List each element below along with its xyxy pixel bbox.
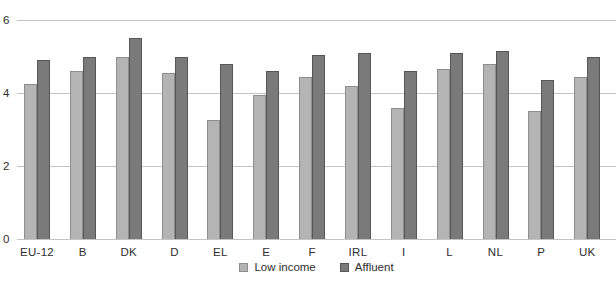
x-tick-label: D — [152, 247, 198, 259]
bar-affluent — [541, 80, 554, 239]
bar-low-income — [437, 69, 450, 239]
y-tick-label: 0 — [3, 234, 9, 246]
x-tick-label: P — [518, 247, 564, 259]
x-tick-label: I — [381, 247, 427, 259]
bar-low-income — [24, 84, 37, 239]
bar-low-income — [253, 95, 266, 239]
bar-affluent — [587, 57, 600, 240]
bar-affluent — [129, 38, 142, 239]
legend-item-low-income: Low income — [239, 262, 315, 274]
bar-chart: Low income Affluent 0246EU-12BDKDELEFIRL… — [0, 0, 616, 285]
x-tick-label: E — [243, 247, 289, 259]
bar-low-income — [391, 108, 404, 239]
x-tick-label: NL — [473, 247, 519, 259]
legend-item-affluent: Affluent — [340, 262, 394, 274]
bar-low-income — [345, 86, 358, 239]
y-tick-label: 6 — [3, 15, 9, 27]
bar-affluent — [175, 57, 188, 240]
y-tick-label: 2 — [3, 161, 9, 173]
bar-affluent — [404, 71, 417, 239]
bar-affluent — [220, 64, 233, 239]
bar-low-income — [116, 57, 129, 240]
bar-low-income — [528, 111, 541, 239]
bar-low-income — [207, 120, 220, 239]
legend-swatch-low-income — [239, 263, 248, 272]
x-tick-label: IRL — [335, 247, 381, 259]
bar-low-income — [70, 71, 83, 239]
x-tick-label: DK — [106, 247, 152, 259]
x-tick-label: L — [427, 247, 473, 259]
x-tick-label: EL — [197, 247, 243, 259]
bar-low-income — [483, 64, 496, 239]
legend-label-affluent: Affluent — [355, 262, 394, 274]
legend-label-low-income: Low income — [254, 262, 315, 274]
bar-affluent — [496, 51, 509, 239]
x-tick-label: UK — [564, 247, 610, 259]
bar-affluent — [450, 53, 463, 239]
gridline — [17, 20, 616, 21]
gridline — [17, 239, 616, 240]
bar-affluent — [312, 55, 325, 239]
y-tick-label: 4 — [3, 88, 9, 100]
bar-low-income — [299, 77, 312, 239]
x-tick-label: F — [289, 247, 335, 259]
bar-affluent — [83, 57, 96, 240]
bar-low-income — [162, 73, 175, 239]
bar-affluent — [266, 71, 279, 239]
bar-low-income — [574, 77, 587, 239]
legend: Low income Affluent — [17, 262, 616, 274]
bar-affluent — [358, 53, 371, 239]
x-tick-label: EU-12 — [14, 247, 60, 259]
legend-swatch-affluent — [340, 263, 349, 272]
x-tick-label: B — [60, 247, 106, 259]
bar-affluent — [37, 60, 50, 239]
